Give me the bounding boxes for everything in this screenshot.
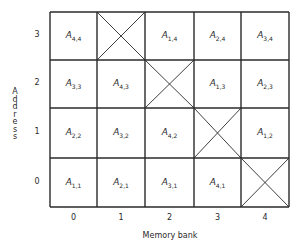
cell-label-subscript: 2,2	[72, 132, 82, 139]
y-axis-title-letter: s	[11, 133, 19, 141]
cell-label: A3,1	[162, 177, 178, 189]
column-label: 2	[167, 213, 172, 222]
cell-label: A4,2	[162, 127, 178, 139]
cell-label-subscript: 2,3	[263, 83, 273, 90]
cell-label-subscript: 3,2	[119, 132, 129, 139]
cell-label: A4,3	[113, 78, 129, 90]
column-label: 3	[215, 213, 220, 222]
cell-label-subscript: 1,4	[168, 35, 178, 42]
cell-label: A1,1	[66, 177, 82, 189]
cell-label-subscript: 2,4	[216, 35, 226, 42]
y-axis-title: Address	[11, 88, 19, 141]
cell-label-subscript: 3,4	[263, 35, 273, 42]
cell-label-subscript: 4,3	[119, 83, 129, 90]
cell-label: A2,4	[210, 30, 226, 42]
cell-label-subscript: 1,1	[72, 181, 82, 188]
memory-bank-grid	[0, 0, 301, 250]
cell-label: A3,3	[66, 78, 82, 90]
cell-label: A2,2	[66, 127, 82, 139]
cell-label: A4,1	[210, 177, 226, 189]
cell-label: A2,1	[113, 177, 129, 189]
cell-label-subscript: 1,2	[263, 132, 273, 139]
cell-label: A2,3	[257, 78, 273, 90]
cell-label: A3,4	[257, 30, 273, 42]
row-label: 0	[34, 176, 39, 185]
cell-label-subscript: 3,3	[72, 83, 82, 90]
cell-label: A1,4	[162, 30, 178, 42]
cell-label-subscript: 4,4	[72, 35, 82, 42]
cell-label: A4,4	[66, 30, 82, 42]
cell-label-subscript: 3,1	[168, 181, 178, 188]
column-label: 0	[71, 213, 76, 222]
cell-label-subscript: 4,1	[216, 181, 226, 188]
cell-label: A3,2	[113, 127, 129, 139]
column-label: 4	[262, 213, 267, 222]
cell-label-subscript: 4,2	[168, 132, 178, 139]
x-axis-title: Memory bank	[143, 231, 198, 240]
cell-label-subscript: 1,3	[216, 83, 226, 90]
cell-label-subscript: 2,1	[119, 181, 129, 188]
row-label: 3	[34, 30, 39, 39]
cell-label: A1,3	[210, 78, 226, 90]
row-label: 1	[34, 127, 39, 136]
column-label: 1	[118, 213, 123, 222]
row-label: 2	[34, 78, 39, 87]
cell-label: A1,2	[257, 127, 273, 139]
